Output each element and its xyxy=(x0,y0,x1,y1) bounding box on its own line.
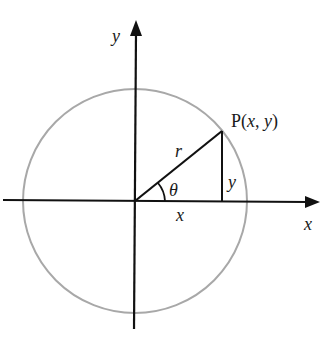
point-label-x: x xyxy=(246,111,255,131)
radius-label: r xyxy=(175,141,183,161)
y-axis-arrow-icon xyxy=(130,20,142,36)
point-label-prefix: P( xyxy=(231,111,247,132)
point-label-suffix: ) xyxy=(272,111,278,132)
horizontal-leg-label: x xyxy=(175,205,184,225)
x-axis xyxy=(3,200,308,202)
y-axis xyxy=(134,32,136,329)
polar-coordinates-diagram: y x P(x, y) r θ y x xyxy=(0,0,324,347)
point-label: P(x, y) xyxy=(231,111,278,132)
vertical-leg-label: y xyxy=(226,172,236,192)
angle-label: θ xyxy=(169,180,178,200)
y-axis-label: y xyxy=(110,26,120,46)
point-label-sep: , xyxy=(255,111,264,131)
x-axis-label: x xyxy=(303,214,312,234)
point-label-y: y xyxy=(262,111,272,131)
x-axis-arrow-icon xyxy=(305,196,320,208)
angle-arc xyxy=(158,183,165,201)
